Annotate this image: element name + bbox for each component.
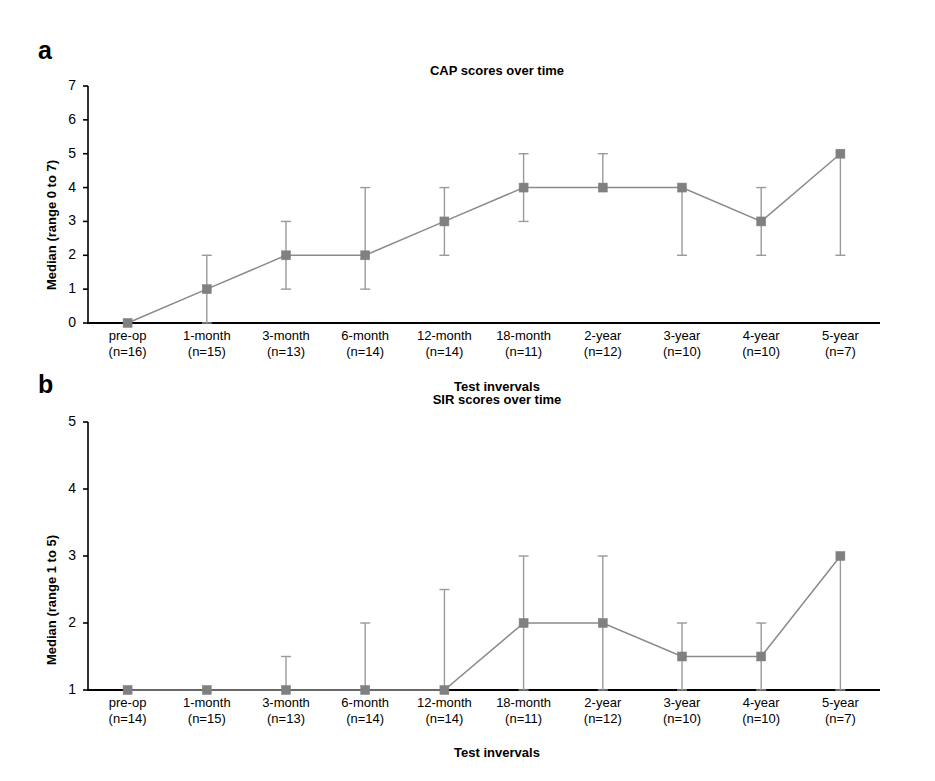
y-tick-label: 3	[54, 547, 76, 563]
y-tick-label: 6	[54, 111, 76, 127]
y-tick-label: 7	[54, 77, 76, 93]
y-tick-label: 2	[54, 246, 76, 262]
y-tick-label: 2	[54, 614, 76, 630]
y-tick-label: 3	[54, 212, 76, 228]
y-tick-label: 5	[54, 413, 76, 429]
y-tick-label: 4	[54, 179, 76, 195]
x-tick-interval: 5-year	[790, 328, 890, 344]
x-tick-interval: 5-year	[790, 695, 890, 711]
y-tick-label: 5	[54, 145, 76, 161]
x-tick-label: 5-year(n=7)	[790, 695, 890, 727]
x-tick-sample-size: (n=7)	[790, 344, 890, 360]
x-tick-sample-size: (n=7)	[790, 711, 890, 727]
y-tick-label: 1	[54, 280, 76, 296]
x-tick-label: 5-year(n=7)	[790, 328, 890, 360]
figure-container: a CAP scores over time Median (range 0 t…	[0, 0, 935, 781]
y-tick-label: 4	[54, 480, 76, 496]
chart-plot-b	[0, 0, 935, 781]
y-tick-label: 0	[54, 314, 76, 330]
y-tick-label: 1	[54, 681, 76, 697]
